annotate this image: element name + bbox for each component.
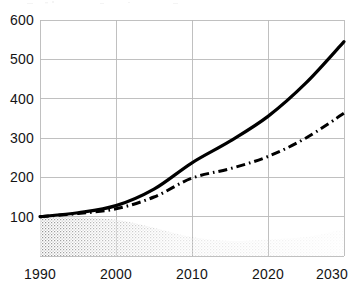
y-tick-label-400: 400 [0,92,34,106]
x-tick-label-2010: 2010 [162,267,222,281]
x-tick-label-1990: 1990 [10,267,70,281]
line-chart-plot [0,0,354,288]
y-tick-label-200: 200 [0,170,34,184]
x-tick-label-2030: 2030 [310,267,354,281]
y-tick-label-100: 100 [0,210,34,224]
chart-container: 600 500 400 300 200 100 1990 2000 2010 2… [0,0,354,288]
y-tick-label-300: 300 [0,131,34,145]
y-tick-label-600: 600 [0,13,34,27]
y-tick-label-500: 500 [0,52,34,66]
x-tick-label-2000: 2000 [86,267,146,281]
x-tick-label-2020: 2020 [238,267,298,281]
